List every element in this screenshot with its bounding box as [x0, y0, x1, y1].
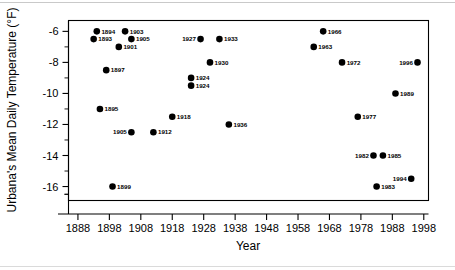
data-point-marker — [226, 121, 233, 128]
data-point-label: 1996 — [399, 59, 413, 66]
data-point-marker — [370, 152, 377, 159]
data-point[interactable]: 1982 — [355, 152, 377, 159]
y-tick-label--10: -10 — [43, 87, 59, 99]
data-point-label: 1933 — [224, 35, 238, 42]
data-point-label: 1912 — [158, 128, 172, 135]
y-tick-label--12: -12 — [43, 118, 59, 130]
data-point[interactable]: 1903 — [122, 28, 144, 35]
data-point-label: 1895 — [105, 105, 119, 112]
data-point-marker — [207, 59, 214, 66]
data-point[interactable]: 1972 — [339, 59, 361, 66]
data-point-label: 1905 — [136, 35, 150, 42]
data-point-marker — [109, 183, 116, 190]
x-tick-label-1888: 1888 — [66, 222, 90, 234]
x-tick-label-1928: 1928 — [191, 222, 215, 234]
data-point-label: 1994 — [393, 175, 407, 182]
data-point[interactable]: 1983 — [373, 183, 395, 190]
data-point-label: 1905 — [113, 128, 127, 135]
data-point-label: 1963 — [318, 43, 332, 50]
x-tick-label-1998: 1998 — [412, 222, 436, 234]
y-tick-label--6: -6 — [49, 25, 59, 37]
data-point-marker — [373, 183, 380, 190]
data-point-marker — [188, 75, 195, 82]
data-point-label: 1918 — [177, 113, 191, 120]
x-tick-label-1938: 1938 — [223, 222, 247, 234]
data-point[interactable]: 1899 — [109, 183, 131, 190]
data-point-label: 1966 — [328, 28, 342, 35]
y-tick-label--14: -14 — [43, 150, 59, 162]
data-point-label: 1982 — [355, 152, 369, 159]
x-axis-tick-labels: 1888189819081918192819381948195819681978… — [66, 222, 436, 234]
data-point-label: 1897 — [111, 66, 125, 73]
data-point[interactable]: 1994 — [393, 175, 415, 182]
data-point-marker — [93, 28, 100, 35]
data-point-marker — [354, 113, 361, 120]
data-point-marker — [408, 175, 415, 182]
data-point[interactable]: 1918 — [169, 113, 191, 120]
data-point-label: 1899 — [117, 183, 131, 190]
x-tick-label-1898: 1898 — [97, 222, 121, 234]
data-point[interactable]: 1912 — [150, 128, 172, 135]
data-point[interactable]: 1933 — [216, 35, 238, 42]
x-axis-ticks — [78, 214, 424, 220]
data-point-marker — [310, 44, 317, 51]
x-axis-title: Year — [236, 239, 260, 253]
data-point-marker — [392, 90, 399, 97]
data-point-marker — [380, 152, 387, 159]
data-point-marker — [188, 82, 195, 89]
x-tick-label-1988: 1988 — [380, 222, 404, 234]
y-axis-minor-ticks — [65, 47, 69, 194]
data-point[interactable]: 1966 — [320, 28, 342, 35]
data-point[interactable]: 1895 — [97, 105, 119, 112]
data-point-marker — [116, 44, 123, 51]
chart-figure: -6-8-10-12-14-16 18881898190819181928193… — [0, 0, 455, 270]
data-point-marker — [128, 36, 135, 43]
data-point-marker — [128, 129, 135, 136]
data-point-marker — [150, 129, 157, 136]
data-point[interactable]: 1977 — [354, 113, 376, 120]
data-point-group: 1894190319661893190519271933190119631930… — [90, 28, 420, 190]
data-point[interactable]: 1893 — [90, 35, 112, 42]
data-point[interactable]: 1936 — [226, 121, 248, 128]
data-point-marker — [122, 28, 129, 35]
data-point-marker — [320, 28, 327, 35]
data-point-label: 1989 — [400, 90, 414, 97]
data-point[interactable]: 1930 — [207, 59, 229, 66]
data-point[interactable]: 1924 — [188, 74, 210, 81]
x-tick-label-1908: 1908 — [129, 222, 153, 234]
data-point-marker — [216, 36, 223, 43]
data-point-label: 1924 — [196, 82, 210, 89]
y-tick-label--16: -16 — [43, 181, 59, 193]
data-point-marker — [90, 36, 97, 43]
data-point-marker — [414, 59, 421, 66]
data-point-marker — [103, 67, 110, 74]
data-point-label: 1924 — [196, 74, 210, 81]
data-point-label: 1927 — [182, 35, 196, 42]
data-point-label: 1893 — [98, 35, 112, 42]
data-point-label: 1985 — [388, 152, 402, 159]
y-tick-label--8: -8 — [49, 56, 59, 68]
data-point[interactable]: 1901 — [116, 43, 138, 50]
data-point[interactable]: 1996 — [399, 59, 421, 66]
data-point[interactable]: 1897 — [103, 66, 125, 73]
x-tick-label-1958: 1958 — [286, 222, 310, 234]
data-point[interactable]: 1924 — [188, 82, 210, 89]
data-point-label: 1894 — [101, 28, 115, 35]
data-point-label: 1977 — [362, 113, 376, 120]
x-tick-label-1968: 1968 — [317, 222, 341, 234]
data-point-marker — [97, 106, 104, 113]
data-point[interactable]: 1963 — [310, 43, 332, 50]
x-tick-label-1978: 1978 — [349, 222, 373, 234]
data-point-label: 1930 — [215, 59, 229, 66]
data-point[interactable]: 1894 — [93, 28, 115, 35]
data-point[interactable]: 1989 — [392, 90, 414, 97]
data-point[interactable]: 1905 — [128, 35, 150, 42]
data-point-label: 1983 — [381, 183, 395, 190]
data-point-marker — [197, 36, 204, 43]
x-tick-label-1918: 1918 — [160, 222, 184, 234]
data-point-marker — [169, 113, 176, 120]
data-point[interactable]: 1905 — [113, 128, 135, 135]
data-point[interactable]: 1927 — [182, 35, 204, 42]
data-point-label: 1972 — [347, 59, 361, 66]
data-point[interactable]: 1985 — [380, 152, 402, 159]
